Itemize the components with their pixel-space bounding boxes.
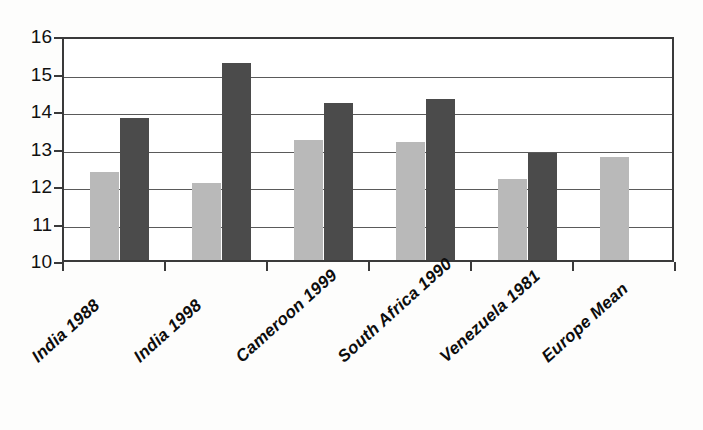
x-axis-tick-mark	[470, 262, 472, 271]
gridline	[64, 189, 672, 190]
gridline	[64, 77, 672, 78]
x-axis-tick-mark	[164, 262, 166, 271]
bar	[120, 118, 149, 261]
x-axis-category-label: Cameroon 1999	[232, 266, 341, 367]
bar	[222, 63, 251, 260]
gridline	[64, 114, 672, 115]
y-axis-tick-label: 12	[8, 177, 52, 196]
y-axis-tick-label: 15	[8, 65, 52, 84]
bar	[90, 172, 119, 260]
x-axis-category-label: India 1988	[28, 296, 104, 367]
x-axis-category-label: Venezuela 1981	[436, 266, 544, 366]
x-axis-tick-mark	[62, 262, 64, 271]
bar	[498, 179, 527, 260]
y-axis-tick-label: 16	[8, 27, 52, 46]
bar	[426, 99, 455, 260]
bar	[192, 183, 221, 260]
chart-screenshot: 16151413121110 India 1988India 1998Camer…	[0, 0, 703, 430]
plot-area	[62, 37, 674, 262]
x-axis-tick-mark	[674, 262, 676, 271]
bar	[600, 157, 629, 260]
bar	[528, 153, 557, 260]
gridline	[64, 152, 672, 153]
bar	[396, 142, 425, 260]
x-axis-tick-mark	[266, 262, 268, 271]
x-axis-category-label: Europe Mean	[538, 279, 632, 367]
y-axis-tick-label: 11	[8, 215, 52, 234]
x-axis-category-label: India 1998	[130, 296, 206, 367]
gridline	[64, 227, 672, 228]
bar	[294, 140, 323, 260]
bar	[324, 103, 353, 261]
y-axis-tick-label: 13	[8, 140, 52, 159]
y-axis-tick-label: 10	[8, 252, 52, 271]
x-axis-tick-mark	[572, 262, 574, 271]
y-axis-tick-label: 14	[8, 102, 52, 121]
x-axis-tick-mark	[368, 262, 370, 271]
